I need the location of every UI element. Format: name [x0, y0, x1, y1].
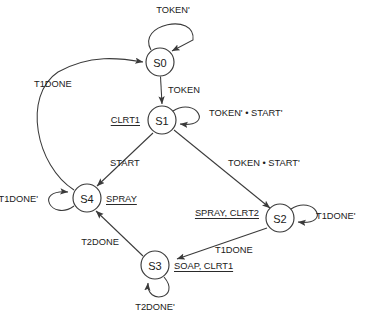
- state-node-S2[interactable]: S2: [266, 204, 294, 232]
- state-diagram-canvas: S0 S1 S2 S3 S4 TOKEN' TOKEN TOKEN' • STA…: [0, 0, 369, 319]
- transition-label-S1-S1: TOKEN' • START': [209, 108, 283, 118]
- state-output-S3: SOAP, CLRT1: [174, 261, 233, 271]
- transition-label-S3-S4: T2DONE: [81, 237, 119, 247]
- state-output-S2: SPRAY, CLRT2: [195, 208, 259, 218]
- transition-S1-S1-path: [173, 107, 199, 124]
- state-label-S4: S4: [80, 193, 93, 205]
- state-output-S1: CLRT1: [111, 115, 140, 125]
- transition-label-S1-S4: START: [110, 158, 140, 168]
- transition-label-S4-S0: T1DONE: [34, 79, 72, 89]
- transition-label-S2-S2: T1DONE': [316, 211, 356, 221]
- state-label-S0: S0: [153, 57, 166, 69]
- transition-S2-S2-path: [291, 205, 317, 222]
- state-label-S3: S3: [148, 260, 161, 272]
- state-node-S1[interactable]: S1: [148, 106, 176, 134]
- transition-S1-S2-path: [174, 130, 270, 208]
- transition-label-S0-S0: TOKEN': [156, 5, 190, 15]
- transition-label-S0-S1: TOKEN: [168, 85, 200, 95]
- transition-label-S3-S3: T2DONE': [135, 302, 175, 312]
- transition-label-S4-S4: T1DONE': [0, 194, 38, 204]
- transition-label-S1-S2: TOKEN • START': [228, 158, 300, 168]
- transition-S3-S4-path: [96, 211, 143, 256]
- transition-S0-S1-path: [161, 77, 163, 105]
- transition-S3-S3-path: [148, 277, 169, 297]
- state-node-S3[interactable]: S3: [141, 251, 169, 279]
- state-label-S2: S2: [273, 213, 286, 225]
- state-node-S0[interactable]: S0: [146, 48, 174, 76]
- state-label-S1: S1: [155, 115, 168, 127]
- state-output-S4: SPRAY: [106, 194, 137, 204]
- transition-S4-S4-path: [49, 192, 74, 211]
- state-node-S4[interactable]: S4: [73, 184, 101, 212]
- transition-label-S2-S3: T1DONE: [215, 245, 253, 255]
- fsm-svg: S0 S1 S2 S3 S4 TOKEN' TOKEN TOKEN' • STA…: [0, 0, 369, 319]
- transition-S0-S0-path: [149, 24, 194, 51]
